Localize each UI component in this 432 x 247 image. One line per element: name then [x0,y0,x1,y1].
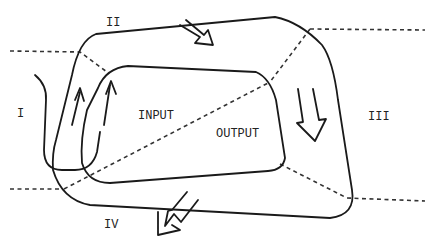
region-label-IV: IV [104,218,119,232]
outer-loop [53,17,353,218]
output-label: OUTPUT [216,127,259,141]
region-label-I: I [17,107,24,121]
region-label-II: II [106,16,120,30]
arrow-right-icon [297,89,326,141]
cycle-diagram: II I III IV INPUT OUTPUT [0,0,432,247]
arrow-bottom-icon [158,192,198,235]
region-label-III: III [368,110,390,124]
input-curve [35,75,100,170]
input-label: INPUT [138,109,174,123]
arrow-left-up-icon [72,81,116,125]
